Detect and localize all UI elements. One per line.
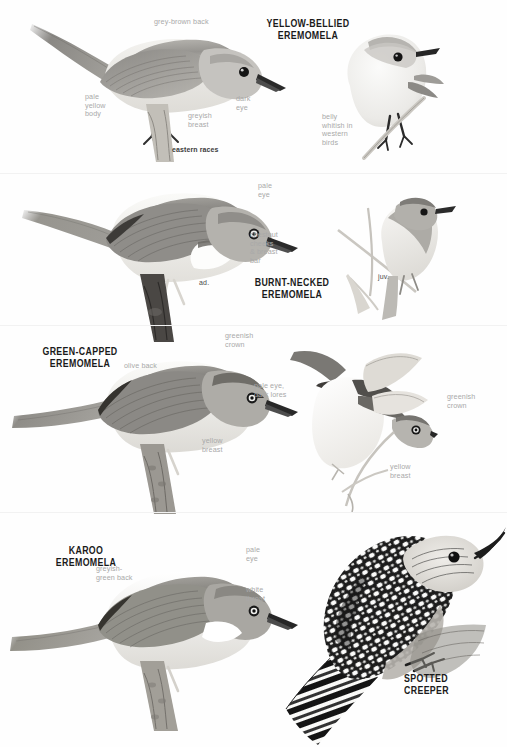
annotation-olive-back: olive back xyxy=(124,362,157,371)
annotation-grey-brown-back: grey-brown back xyxy=(154,18,209,27)
annotation-dark-eye: dark eye xyxy=(236,95,250,112)
species-title-burnt-necked-eremomela: BURNT-NECKED EREMOMELA xyxy=(239,277,345,301)
annotation-greyish-breast: greyish breast xyxy=(188,112,212,129)
panel-yellow-bellied-eremomela: YELLOW-BELLIED EREMOMELA grey-brown back… xyxy=(0,0,507,172)
annotation-greenish-crown: greenish crown xyxy=(225,332,253,349)
bird-illustration-spotted-creeper xyxy=(266,513,506,747)
annotation-eastern-races: eastern races xyxy=(172,146,218,155)
annotation-yellow-breast: yellow breast xyxy=(202,437,223,454)
age-label-juvenile: juv. xyxy=(378,273,389,280)
species-title-spotted-creeper: SPOTTED CREEPER xyxy=(404,673,501,697)
species-title-green-capped-eremomela: GREEN-CAPPED EREMOMELA xyxy=(25,346,134,370)
bird-illustration-yellow-bellied-adult xyxy=(28,12,288,162)
annotation-pale-eye-karoo: pale eye xyxy=(246,546,260,563)
field-guide-plate: YELLOW-BELLIED EREMOMELA grey-brown back… xyxy=(0,0,507,747)
bird-illustration-burnt-necked-juvenile xyxy=(330,184,460,324)
annotation-pale-yellow-body: pale yellow body xyxy=(85,93,106,119)
panel-karoo-eremomela-spotted-creeper: KAROO EREMOMELA greyish- green back pale… xyxy=(0,513,507,747)
panel-burnt-necked-eremomela: BURNT-NECKED EREMOMELA pale eye chestnut… xyxy=(0,174,507,324)
age-label-adult: ad. xyxy=(199,279,209,286)
annotation-chestnut-cheeks-breast-bar: chestnut cheeks & breast bar xyxy=(250,231,278,265)
annotation-greyish-green-back: greyish- green back xyxy=(96,565,133,582)
annotation-greenish-crown-2: greenish crown xyxy=(447,393,475,410)
panel-green-capped-eremomela: GREEN-CAPPED EREMOMELA greenish crown ol… xyxy=(0,326,507,511)
annotation-belly-whitish-western-birds: belly whitish in western birds xyxy=(322,113,353,147)
annotation-white-throat: white throat xyxy=(246,586,265,603)
bird-illustration-green-capped-underside xyxy=(288,334,438,514)
annotation-pale-eye: pale eye xyxy=(258,182,272,199)
annotation-pale-eye-dark-lores: pale eye, dark lores xyxy=(254,382,287,399)
bird-illustration-karoo-eremomela xyxy=(10,541,300,731)
species-title-yellow-bellied-eremomela: YELLOW-BELLIED EREMOMELA xyxy=(255,18,361,42)
annotation-yellow-breast-2: yellow breast xyxy=(390,463,411,480)
